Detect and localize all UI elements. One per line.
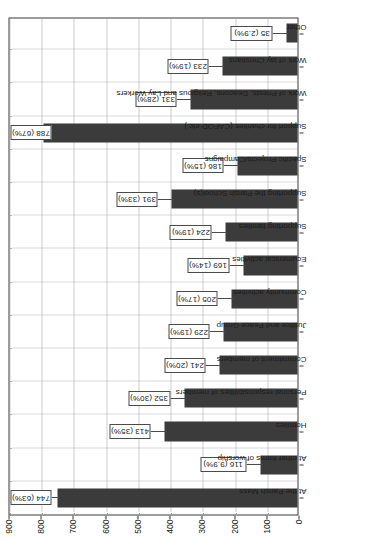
bar-value-label: 352 (30%) [128, 390, 169, 405]
bar-value-label-text: 233 (19%) [168, 61, 206, 70]
label-leader-line [209, 331, 225, 332]
bar-value-label: 169 (14%) [187, 258, 228, 273]
label-leader-line [205, 364, 221, 365]
value-axis-tick-mark [169, 515, 170, 519]
bar-value-label-text: 35 (2.9%) [233, 28, 269, 37]
label-leader-line [217, 298, 233, 299]
label-leader-line [229, 265, 245, 266]
value-axis: 0100200300400500600700800900 [8, 515, 298, 541]
value-axis-tick-label: 200 [229, 519, 239, 533]
category-axis-label-text: Community activities [233, 287, 306, 296]
bar-value-label-text: 788 (67%) [12, 128, 50, 137]
rotated-chart-canvas: 0100200300400500600700800900 744 (63%)11… [0, 0, 376, 541]
bar-value-label-text: 391 (33%) [117, 194, 155, 203]
bar-value-label: 224 (19%) [169, 224, 210, 239]
value-axis-tick-label: 900 [3, 519, 13, 533]
bar-value-label: 241 (20%) [164, 357, 205, 372]
label-leader-line [208, 65, 224, 66]
value-axis-tick-mark [234, 515, 235, 519]
category-axis-label-text: Justice and Peace Group [216, 320, 306, 329]
value-axis-tick-label: 400 [164, 519, 174, 533]
category-axis-tick-mark [299, 165, 303, 166]
bar-value-label: 788 (67%) [10, 125, 51, 140]
bar-value-label: 233 (19%) [167, 58, 208, 73]
category-axis-tick-mark [299, 132, 303, 133]
bar-value-label: 229 (19%) [168, 324, 209, 339]
bar-slot[interactable]: 35 (2.9%) [9, 23, 297, 42]
category-axis-label-text: At the Parish Mass [239, 486, 306, 495]
bar-value-label-text: 205 (17%) [177, 294, 215, 303]
category-axis-label-text: Supporting the Parish School(s) [193, 188, 306, 197]
category-axis-tick-mark [299, 199, 303, 200]
value-axis-tick-mark [72, 515, 73, 519]
value-axis-tick-mark [201, 515, 202, 519]
bar-value-label: 35 (2.9%) [230, 25, 271, 40]
label-leader-line [170, 397, 186, 398]
category-axis-label-text: Work of Priests, Deacons, Religious and … [116, 88, 306, 97]
category-axis-label: Other [306, 11, 315, 31]
bar-value-label: 744 (63%) [10, 490, 51, 505]
category-axis-tick-mark [299, 33, 303, 34]
bar-value-label-text: 224 (19%) [171, 227, 209, 236]
label-leader-line [223, 165, 239, 166]
label-leader-line [51, 497, 59, 498]
category-axis-label-text: Work of lay Christians [228, 55, 306, 64]
label-leader-line [157, 198, 173, 199]
bar-value-label-text: 169 (14%) [189, 261, 227, 270]
category-axis-label-text: Homilies [275, 420, 306, 429]
category-axis: At the Parish MassAt other forms of wors… [299, 17, 376, 515]
value-axis-tick-label: 600 [100, 519, 110, 533]
category-axis-label: Work of lay Christians [306, 0, 315, 64]
value-axis-tick-label: 700 [67, 519, 77, 533]
bar-slot[interactable]: 413 (35%) [9, 421, 297, 440]
value-axis-tick-mark [298, 515, 299, 519]
label-leader-line [211, 231, 227, 232]
category-axis-tick-mark [299, 331, 303, 332]
category-axis-tick-mark [299, 464, 303, 465]
bar-value-label-text: 241 (20%) [166, 360, 204, 369]
chart-page: 0100200300400500600700800900 744 (63%)11… [0, 0, 376, 541]
category-axis-label-text: Supporting families [238, 221, 306, 230]
bar-value-label: 413 (35%) [109, 424, 150, 439]
value-axis-tick-mark [8, 515, 9, 519]
category-axis-label-text: Support for charities (CAFOD etc.) [184, 121, 306, 130]
category-axis-label-text: At other forms of worship [217, 453, 306, 462]
category-axis-tick-mark [299, 365, 303, 366]
value-axis-tick-mark [40, 515, 41, 519]
category-axis-tick-mark [299, 298, 303, 299]
value-axis-tick-label: 500 [132, 519, 142, 533]
value-axis-tick-label: 800 [35, 519, 45, 533]
value-axis-tick-label: 300 [196, 519, 206, 533]
label-leader-line [150, 431, 166, 432]
value-axis-tick-label: 100 [261, 519, 271, 533]
bar-chart: 0100200300400500600700800900 744 (63%)11… [0, 0, 376, 541]
bar-value-label: 391 (33%) [116, 191, 157, 206]
value-axis-tick-mark [266, 515, 267, 519]
bar-value-label-text: 413 (35%) [110, 427, 148, 436]
value-axis-tick-mark [105, 515, 106, 519]
category-axis-label-text: Commitment of members [216, 354, 306, 363]
label-leader-line [246, 464, 262, 465]
value-axis-tick-mark [137, 515, 138, 519]
label-leader-line [176, 99, 192, 100]
category-axis-tick-mark [299, 232, 303, 233]
category-axis-tick-mark [299, 431, 303, 432]
category-axis-tick-mark [299, 99, 303, 100]
bar-value-label-text: 352 (30%) [130, 393, 168, 402]
bar-value-label: 205 (17%) [176, 291, 217, 306]
category-axis-tick-mark [299, 265, 303, 266]
value-axis-tick-label: 0 [293, 519, 303, 524]
category-axis-tick-mark [299, 497, 303, 498]
category-axis-label-text: Specific Projects/Campaigns [204, 154, 306, 163]
category-axis-label-text: Other [286, 22, 306, 31]
category-axis-tick-mark [299, 398, 303, 399]
bar-value-label-text: 229 (19%) [170, 327, 208, 336]
bar-value-label-text: 744 (63%) [12, 493, 50, 502]
category-axis-label: Homilies [306, 398, 315, 429]
label-leader-line [272, 32, 288, 33]
category-axis-tick-mark [299, 66, 303, 67]
category-axis-label-text: Personal responsibilities of members [175, 387, 306, 396]
category-axis-label-text: Ecumenical activities [232, 254, 306, 263]
